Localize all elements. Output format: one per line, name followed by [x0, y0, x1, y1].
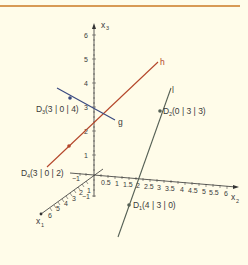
- line-h-label: h: [160, 57, 165, 67]
- point-d4: [67, 144, 71, 148]
- x3-arrow-icon: [92, 23, 96, 29]
- x3-tick-1: 1: [84, 152, 88, 159]
- x2-tick-3.5: 3.5: [165, 185, 175, 192]
- line-g-label: g: [118, 117, 123, 127]
- x1-tick-4: 4: [64, 200, 68, 207]
- x3-axis-label: x 3: [101, 20, 109, 31]
- x2-tick-1.5: 1.5: [123, 181, 133, 188]
- line-h: [47, 62, 158, 167]
- svg-text:1: 1: [41, 222, 44, 228]
- svg-text:(3 | 0 | 2): (3 | 0 | 2): [30, 168, 64, 178]
- x2-tick-6: 6: [224, 190, 228, 197]
- svg-text:(0 | 3 | 3): (0 | 3 | 3): [172, 106, 206, 116]
- x2-tick-2.5: 2.5: [144, 183, 154, 190]
- point-d1: [127, 203, 131, 207]
- svg-text:2: 2: [236, 198, 239, 204]
- x2-tick-5: 5: [202, 188, 206, 195]
- diagram-frame: 6 5 4 3 2 1 −1 x 3 −1 0.5 1 1.5 2 2.5 3 …: [0, 0, 248, 265]
- x3-tick-5: 5: [84, 56, 88, 63]
- point-d1-label: D 1 (4 | 3 | 0): [133, 200, 176, 211]
- x3-axis: [92, 27, 96, 197]
- line-l-label: l: [172, 85, 174, 95]
- x2-tick-4.5: 4.5: [188, 187, 198, 194]
- svg-text:(3 | 0 | 4): (3 | 0 | 4): [45, 104, 79, 114]
- x1-tick-1: 1: [87, 187, 91, 194]
- x2-tick-3: 3: [157, 184, 161, 191]
- point-d2-label: D 2 (0 | 3 | 3): [163, 106, 206, 117]
- svg-text:(4 | 3 | 0): (4 | 3 | 0): [142, 200, 176, 210]
- x1-axis-label: x 1: [36, 216, 44, 228]
- point-d2: [158, 109, 162, 113]
- x3-tick-6: 6: [84, 32, 88, 39]
- x3-tick-4: 4: [84, 80, 88, 87]
- x2-tick-neg1: −1: [72, 175, 80, 182]
- x1-tick-3: 3: [72, 195, 76, 202]
- point-d4-label: D 4 (3 | 0 | 2): [21, 168, 64, 179]
- x2-arrow-icon: [233, 185, 239, 189]
- x1-tick-5: 5: [56, 205, 60, 212]
- svg-text:3: 3: [106, 25, 109, 31]
- point-d3-label: D 3 (3 | 0 | 4): [36, 104, 79, 115]
- x2-tick-5.5: 5.5: [209, 189, 219, 196]
- x1-tick-6: 6: [48, 212, 52, 219]
- x1-tick-2: 2: [79, 189, 83, 196]
- x2-tick-4: 4: [180, 186, 184, 193]
- x2-tick-0.5: 0.5: [101, 179, 111, 186]
- point-d3: [68, 96, 72, 100]
- x2-tick-1: 1: [115, 180, 119, 187]
- x2-axis-label: x 2: [231, 192, 239, 204]
- x1-arrow-icon: [40, 213, 43, 216]
- coordinate-diagram: 6 5 4 3 2 1 −1 x 3 −1 0.5 1 1.5 2 2.5 3 …: [0, 0, 248, 265]
- x3-tick-neg1: −1: [82, 193, 90, 200]
